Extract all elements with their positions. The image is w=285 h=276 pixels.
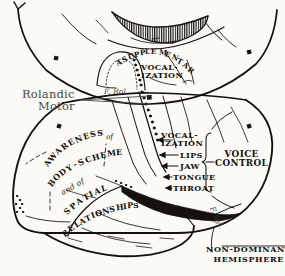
hatch-band-icon [105,6,220,54]
vocalization-line2: IZATION [161,139,203,147]
relationships-letter: S [133,200,139,210]
supplementary-vocalization-label: VOCAL- IZATION [141,63,183,80]
body-scheme-arc-label: B O D Y - S C H E M E [48,162,178,186]
occipital-stipple [15,195,23,212]
supplementary-vocal-line2: IZATION [141,71,183,79]
awareness-of: of [106,132,114,141]
medial-fork-left [18,3,25,9]
rolandic-motor-line2: Motor [38,100,75,112]
awareness-letter: S [96,128,103,139]
medial-sulcus-d [96,20,108,33]
vocalization-label: VOCAL- IZATION [161,131,203,148]
medial-fork-right [14,2,18,9]
temporal-tick-c [136,246,152,248]
supplementary-letter: E [151,47,157,56]
voice-control-line2: CONTROL [215,159,268,168]
jaw-label: JAW [180,162,200,170]
fissure-rolando-label: F. Rol. [104,88,129,96]
arrow-throat [166,186,172,191]
relationships-arc-label: R E L A T I O N S H I P S [62,216,182,240]
parietal-sulcus-b [207,100,224,142]
hemisphere-line1: NON-DOMINANT [206,245,285,253]
hemisphere-line2: HEMISPHERE [206,255,285,263]
medial-sulcus-c [62,14,96,44]
parietal-sulcus-c [231,107,248,142]
rolandic-motor-label: Rolandic Motor [22,88,75,112]
body-scheme-letter: E [116,147,123,157]
medial-sulcus-a [205,22,222,40]
tongue-label: TONGUE [173,173,216,181]
brain-diagram-figure: Rolandic Motor A S U P P L E M E N T A R… [0,0,285,276]
lips-label: LIPS [180,151,203,159]
supplementary-letter: L [145,47,150,56]
throat-label: THROAT [173,184,214,192]
hemisphere-label: NON-DOMINANT HEMISPHERE [206,245,285,264]
rolandic-motor-pointer [80,96,150,104]
voice-control-label: VOICE CONTROL [215,150,268,168]
